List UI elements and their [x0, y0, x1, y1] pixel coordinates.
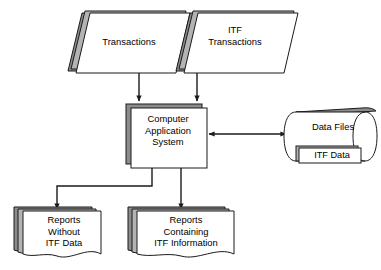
- reports-without-face: [23, 211, 101, 257]
- itf-transactions-face: [184, 13, 298, 73]
- node-reports-containing-itf-information: [128, 207, 234, 257]
- flowchart-diagram: Transactions ITF Transactions Computer A…: [0, 0, 381, 270]
- system-face: [131, 108, 207, 168]
- data-files-right-cap: [365, 112, 377, 161]
- transactions-face: [76, 13, 190, 73]
- reports-containing-face: [137, 211, 234, 257]
- itf-data-face: [299, 148, 361, 163]
- node-itf-transactions: [176, 11, 298, 73]
- node-transactions: [68, 11, 190, 73]
- node-data-files: [284, 108, 377, 163]
- node-reports-without-itf-data: [14, 207, 101, 257]
- node-computer-application-system: [126, 104, 207, 168]
- connector-system-to-reports-without: [57, 168, 152, 209]
- flowchart-canvas: [0, 0, 381, 270]
